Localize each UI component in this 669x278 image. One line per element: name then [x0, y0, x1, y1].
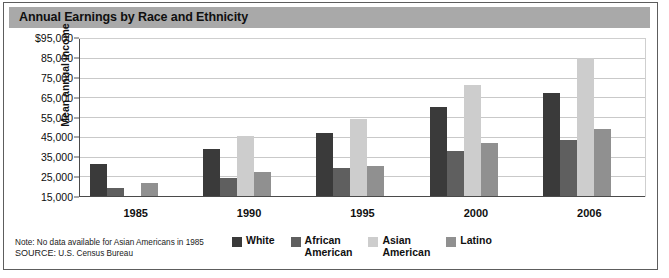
- plot-area: [79, 38, 646, 197]
- bar-latino: [481, 143, 498, 196]
- legend-label: Latino: [460, 235, 492, 247]
- y-axis-ticks: $95,00085,00075,00065,00055,00045,00035,…: [25, 31, 79, 227]
- y-axis-tick-label: 55,000: [41, 112, 73, 124]
- legend-swatch-icon: [291, 237, 301, 247]
- bar-white: [90, 164, 107, 196]
- legend-label: Asian American: [382, 235, 430, 258]
- legend-label: White: [246, 235, 275, 247]
- legend-item: African American: [291, 235, 353, 258]
- chart-legend: WhiteAfrican AmericanAsian AmericanLatin…: [232, 235, 492, 258]
- bar-white: [316, 133, 333, 196]
- source-text: SOURCE: U.S. Census Bureau: [15, 248, 230, 259]
- chart-title-bar: Annual Earnings by Race and Ethnicity: [9, 7, 650, 28]
- bar-latino: [367, 166, 384, 196]
- legend-item: Latino: [446, 235, 492, 247]
- bar-asian-american: [237, 136, 254, 196]
- bar-african-american: [107, 188, 124, 196]
- chart-figure: Annual Earnings by Race and Ethnicity Me…: [3, 2, 658, 270]
- bar-asian-american: [577, 58, 594, 196]
- bar-asian-american: [464, 85, 481, 196]
- legend-item: White: [232, 235, 275, 247]
- bar-african-american: [560, 140, 577, 196]
- y-axis-tick-label: $95,000: [35, 32, 73, 44]
- legend-label: African American: [305, 235, 353, 258]
- page-title: Annual Earnings by Race and Ethnicity: [19, 10, 248, 24]
- legend-swatch-icon: [368, 237, 378, 247]
- x-axis-tick-label: 1985: [79, 207, 192, 219]
- bar-group: [533, 38, 646, 196]
- legend-swatch-icon: [446, 237, 456, 247]
- bar-african-american: [447, 151, 464, 196]
- bar-white: [203, 149, 220, 196]
- bar-latino: [254, 172, 271, 196]
- y-axis-tick-label: 35,000: [41, 151, 73, 163]
- note-text: Note: No data available for Asian Americ…: [15, 237, 230, 248]
- bar-white: [430, 107, 447, 196]
- bar-white: [543, 93, 560, 196]
- bar-asian-american: [350, 119, 367, 196]
- legend-swatch-icon: [232, 237, 242, 247]
- x-axis-tick-label: 1990: [192, 207, 305, 219]
- bar-group: [193, 38, 306, 196]
- bar-latino: [594, 129, 611, 196]
- bar-latino: [141, 183, 158, 196]
- x-axis-tick-label: 2000: [419, 207, 532, 219]
- x-axis-tick-label: 1995: [306, 207, 419, 219]
- y-axis-tick-label: 65,000: [41, 92, 73, 104]
- bar-group: [420, 38, 533, 196]
- y-axis-tick-label: 15,000: [41, 191, 73, 203]
- plot-wrapper: Mean annual income $95,00085,00075,00065…: [9, 31, 650, 227]
- chart-notes: Note: No data available for Asian Americ…: [15, 237, 230, 259]
- source-prefix: SOURCE:: [15, 248, 56, 258]
- x-axis-tick-label: 2006: [533, 207, 646, 219]
- y-axis-tick-label: 45,000: [41, 131, 73, 143]
- y-axis-tick-label: 25,000: [41, 171, 73, 183]
- bar-african-american: [220, 178, 237, 196]
- legend-item: Asian American: [368, 235, 430, 258]
- y-axis-tick-label: 75,000: [41, 72, 73, 84]
- bar-group: [80, 38, 193, 196]
- source-value: U.S. Census Bureau: [58, 249, 133, 258]
- bar-group: [306, 38, 419, 196]
- bar-african-american: [333, 168, 350, 196]
- y-axis-tick-label: 85,000: [41, 52, 73, 64]
